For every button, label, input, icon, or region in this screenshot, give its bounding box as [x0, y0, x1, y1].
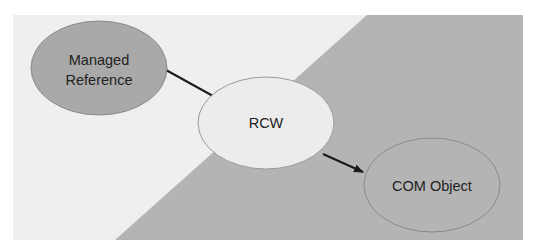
diagram-canvas: Managed Reference RCW COM Object: [0, 0, 536, 252]
node-rcw-label: RCW: [249, 115, 284, 131]
node-rcw[interactable]: RCW: [198, 77, 334, 169]
node-managed-reference-label-line1: Managed: [69, 52, 129, 68]
node-managed-reference[interactable]: Managed Reference: [31, 21, 167, 115]
node-managed-reference-label-line2: Reference: [66, 72, 133, 88]
node-com-object-label: COM Object: [392, 178, 472, 194]
node-com-object[interactable]: COM Object: [364, 138, 500, 232]
